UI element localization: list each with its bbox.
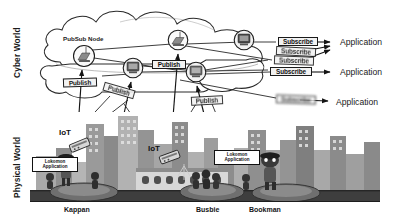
city-label-kappan: Kappan [64, 206, 90, 213]
lokomon-application-box: Lokomon Application [214, 150, 260, 165]
subscribe-label: Subscribe [274, 55, 314, 65]
publish-label: Publish [63, 77, 97, 87]
server-node-icon [234, 30, 254, 50]
iot-label: IoT [59, 128, 71, 137]
physical-world-axis-label: Physical World [12, 137, 22, 198]
lokomon-app-line2: Application [217, 157, 257, 162]
publish-label: Publish [191, 95, 223, 106]
physical-world-city [30, 112, 380, 202]
subscribe-label: Subscribe [276, 94, 316, 104]
server-node-icon [168, 30, 188, 50]
lokomon-application-box: Lokomon Application [32, 157, 78, 172]
subscribe-label: Subscribe [270, 67, 312, 76]
application-label: Application [340, 37, 382, 47]
subscribe-label: Subscribe [278, 37, 318, 46]
publish-label: Publish [152, 60, 186, 69]
server-node-icon [123, 58, 143, 78]
lokomon-app-line2: Application [35, 164, 75, 169]
server-node-icon [74, 46, 95, 67]
pubsub-architecture-figure: Cyber World Physical World PubSub Node P… [0, 0, 405, 224]
cyber-world-axis-label: Cyber World [12, 27, 22, 78]
pubsub-node-caption: PubSub Node [63, 35, 104, 42]
figure-artwork [0, 0, 405, 224]
server-node-icon [186, 62, 206, 82]
city-label-busbie: Busbie [196, 206, 219, 213]
application-label: Application [336, 97, 378, 107]
application-label: Application [340, 67, 382, 77]
city-label-bookman: Bookman [249, 206, 281, 213]
iot-label: IoT [148, 144, 160, 153]
